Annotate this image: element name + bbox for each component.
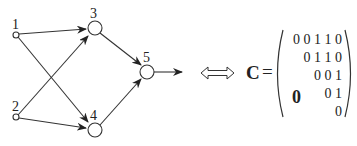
matrix-row-2: 0 1 1 0 [304, 51, 343, 65]
edge-3-5 [100, 33, 141, 65]
equivalence-double-arrow-icon [201, 67, 234, 79]
matrix-row-4: 0 1 [325, 87, 343, 101]
node-label-4: 4 [90, 108, 97, 123]
node-3 [88, 21, 102, 35]
node-label-1: 1 [12, 17, 19, 32]
edge-4-5 [100, 79, 141, 125]
matrix-row-5: 0 [335, 105, 342, 119]
node-label-5: 5 [143, 50, 150, 65]
node-label-3: 3 [90, 6, 97, 21]
node-4 [88, 123, 102, 137]
equals-sign: = [262, 62, 273, 82]
node-label-2: 2 [12, 99, 19, 114]
lower-triangle-zero: 0 [292, 88, 301, 106]
node-2 [13, 114, 19, 120]
edge-2-3 [18, 36, 88, 115]
connectivity-matrix: 0 0 1 1 0 0 1 1 0 0 0 1 0 1 0 0 [280, 28, 350, 120]
edge-1-4 [18, 37, 88, 122]
edge-2-4 [19, 118, 86, 128]
matrix-row-1: 0 0 1 1 0 [293, 33, 342, 47]
edge-1-3 [19, 29, 86, 34]
node-1 [13, 32, 19, 38]
matrix-name: C [246, 63, 260, 83]
matrix-row-3: 0 0 1 [314, 69, 342, 83]
node-5 [140, 65, 154, 79]
